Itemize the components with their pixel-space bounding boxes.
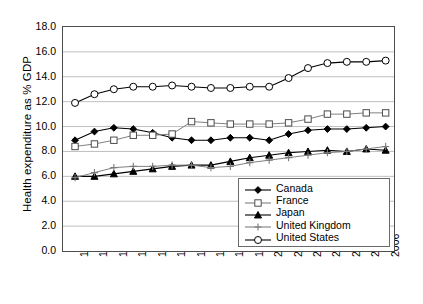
- data-point-open-circle: [227, 84, 234, 91]
- data-point-open-square: [111, 137, 117, 143]
- data-point-open-square: [305, 116, 311, 122]
- data-point-plus: [254, 224, 261, 231]
- data-point-plus: [382, 143, 389, 150]
- data-point-open-circle: [363, 58, 370, 65]
- data-point-open-square: [255, 199, 261, 205]
- legend-item-japan[interactable]: Japan: [243, 207, 385, 219]
- data-point-plus: [130, 163, 137, 170]
- legend-label: United Kingdom: [273, 220, 351, 231]
- series-line: [75, 61, 386, 103]
- series-france: [72, 110, 389, 150]
- legend-marker-open-circle-icon: [243, 232, 273, 244]
- data-point-open-square: [130, 132, 136, 138]
- data-point-filled-diamond: [305, 127, 312, 134]
- chart-figure: Health expenditure as % GDP 0.02.04.06.0…: [0, 0, 423, 304]
- data-point-open-circle: [382, 57, 389, 64]
- data-point-open-square: [324, 111, 330, 117]
- data-point-filled-diamond: [363, 124, 370, 131]
- data-point-filled-diamond: [285, 131, 292, 138]
- legend-item-canada[interactable]: Canada: [243, 182, 385, 194]
- data-point-filled-diamond: [246, 134, 253, 141]
- data-point-open-square: [169, 131, 175, 137]
- data-point-open-circle: [343, 58, 350, 65]
- data-point-filled-diamond: [188, 137, 195, 144]
- data-point-open-square: [72, 143, 78, 149]
- data-point-open-circle: [246, 83, 253, 90]
- data-point-open-circle: [207, 84, 214, 91]
- legend-marker-plus-icon: [243, 219, 273, 231]
- data-point-filled-diamond: [110, 124, 117, 131]
- legend-item-united-kingdom[interactable]: United Kingdom: [243, 219, 385, 231]
- data-point-open-circle: [169, 82, 176, 89]
- data-point-open-square: [285, 120, 291, 126]
- data-point-filled-diamond: [227, 134, 234, 141]
- data-point-open-square: [344, 111, 350, 117]
- legend-label: France: [273, 195, 309, 206]
- legend-marker-open-square-icon: [243, 195, 273, 207]
- series-united-states: [72, 57, 390, 106]
- data-point-open-circle: [304, 65, 311, 72]
- data-point-filled-diamond: [266, 137, 273, 144]
- data-point-plus: [110, 164, 117, 171]
- data-point-open-circle: [188, 83, 195, 90]
- legend-label: Japan: [273, 207, 305, 218]
- data-point-filled-diamond: [255, 187, 262, 194]
- data-point-open-square: [91, 141, 97, 147]
- data-point-plus: [91, 169, 98, 176]
- data-point-open-square: [266, 121, 272, 127]
- data-point-open-circle: [130, 83, 137, 90]
- data-point-filled-diamond: [208, 137, 215, 144]
- data-point-open-circle: [324, 60, 331, 67]
- data-point-open-square: [208, 120, 214, 126]
- legend-label: Canada: [273, 183, 313, 194]
- legend-item-france[interactable]: France: [243, 194, 385, 206]
- legend-item-united-states[interactable]: United States: [243, 232, 385, 244]
- data-point-filled-diamond: [72, 137, 79, 144]
- data-point-open-square: [188, 118, 194, 124]
- data-point-open-circle: [255, 236, 262, 243]
- data-point-plus: [71, 174, 78, 181]
- data-point-filled-diamond: [91, 128, 98, 135]
- series-japan: [72, 145, 390, 179]
- data-point-open-circle: [91, 91, 98, 98]
- legend-marker-filled-diamond-icon: [243, 182, 273, 194]
- data-point-open-square: [382, 110, 388, 116]
- data-point-filled-diamond: [382, 123, 389, 130]
- legend-marker-filled-triangle-icon: [243, 207, 273, 219]
- data-point-open-square: [227, 121, 233, 127]
- data-point-open-circle: [72, 99, 79, 106]
- data-point-open-square: [247, 121, 253, 127]
- data-point-open-circle: [266, 83, 273, 90]
- data-point-open-square: [363, 110, 369, 116]
- data-point-open-square: [149, 132, 155, 138]
- legend-label: United States: [273, 232, 339, 243]
- chart-legend: CanadaFranceJapanUnited KingdomUnited St…: [238, 178, 390, 247]
- data-point-open-circle: [110, 86, 117, 93]
- data-point-open-circle: [285, 75, 292, 82]
- data-point-open-circle: [149, 83, 156, 90]
